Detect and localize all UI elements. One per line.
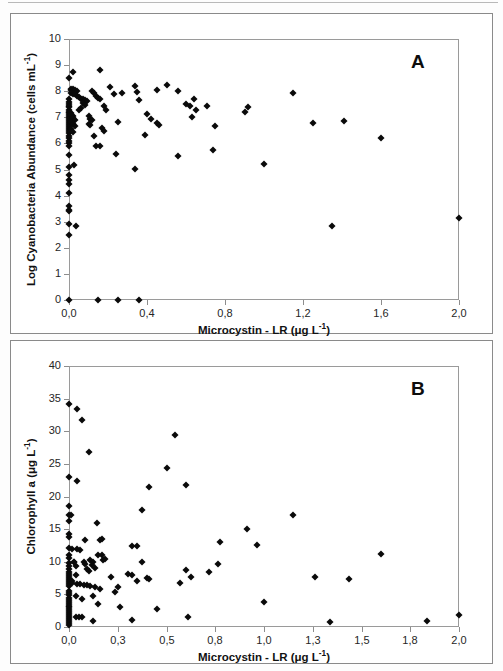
x-tick-a-1 (147, 300, 148, 305)
panel-b: B Microcystin - LR (μg L-1) Chlorophyll … (10, 340, 493, 664)
top-rule-divider (8, 2, 498, 3)
plot-area-a (69, 39, 459, 300)
x-ticklabel-b-6: 1,5 (342, 635, 382, 646)
x-ticklabel-a-0: 0,0 (49, 308, 89, 319)
x-ticklabel-b-3: 0,8 (195, 635, 235, 646)
y-ticklabel-b-8: 40 (21, 360, 61, 371)
y-ticklabel-b-0: 0 (21, 621, 61, 632)
y-tick-b-8 (64, 366, 69, 367)
x-tick-a-2 (225, 300, 226, 305)
x-ticklabel-b-7: 1,8 (390, 635, 430, 646)
y-ticklabel-b-6: 30 (21, 425, 61, 436)
y-tick-a-9 (64, 65, 69, 66)
x-ticklabel-a-5: 2,0 (439, 308, 479, 319)
y-ticklabel-b-3: 15 (21, 523, 61, 534)
x-tick-b-7 (410, 627, 411, 632)
x-ticklabel-b-8: 2,0 (439, 635, 479, 646)
x-ticklabel-a-1: 0,4 (127, 308, 167, 319)
x-axis-title-a: Microcystin - LR (μg L-1) (69, 324, 459, 336)
x-ticklabel-b-2: 0,5 (147, 635, 187, 646)
x-tick-a-5 (459, 300, 460, 305)
y-ticklabel-b-7: 35 (21, 393, 61, 404)
panel-a: A Microcystin - LR (μg L-1) Log Cyanobac… (10, 13, 493, 334)
y-ticklabel-a-9: 9 (21, 59, 61, 70)
x-ticklabel-b-0: 0,0 (49, 635, 89, 646)
y-ticklabel-b-2: 10 (21, 556, 61, 567)
y-tick-b-6 (64, 431, 69, 432)
y-ticklabel-a-7: 7 (21, 111, 61, 122)
y-tick-a-10 (64, 39, 69, 40)
figure-sheet: A Microcystin - LR (μg L-1) Log Cyanobac… (0, 0, 503, 671)
x-tick-b-5 (313, 627, 314, 632)
y-ticklabel-a-2: 2 (21, 242, 61, 253)
x-ticklabel-a-4: 1,6 (361, 308, 401, 319)
x-tick-b-2 (167, 627, 168, 632)
y-ticklabel-a-5: 5 (21, 164, 61, 175)
panel-letter-b: B (411, 378, 425, 400)
x-tick-b-6 (362, 627, 363, 632)
y-tick-a-2 (64, 248, 69, 249)
y-ticklabel-a-4: 4 (21, 190, 61, 201)
x-tick-b-3 (215, 627, 216, 632)
y-ticklabel-a-6: 6 (21, 137, 61, 148)
x-tick-b-8 (459, 627, 460, 632)
x-axis-title-b: Microcystin - LR (μg L-1) (69, 651, 459, 663)
y-ticklabel-a-0: 0 (21, 294, 61, 305)
x-ticklabel-b-1: 0,3 (98, 635, 138, 646)
x-tick-b-1 (118, 627, 119, 632)
x-ticklabel-b-4: 1,0 (244, 635, 284, 646)
y-tick-b-4 (64, 497, 69, 498)
y-ticklabel-a-8: 8 (21, 85, 61, 96)
y-tick-b-5 (64, 464, 69, 465)
x-ticklabel-a-3: 1,2 (283, 308, 323, 319)
y-ticklabel-a-3: 3 (21, 216, 61, 227)
x-tick-b-4 (264, 627, 265, 632)
x-ticklabel-a-2: 0,8 (205, 308, 245, 319)
plot-area-b (69, 366, 459, 627)
x-ticklabel-b-5: 1,3 (293, 635, 333, 646)
panel-letter-a: A (411, 51, 425, 73)
y-ticklabel-b-4: 20 (21, 491, 61, 502)
y-ticklabel-b-5: 25 (21, 458, 61, 469)
y-ticklabel-a-10: 10 (21, 33, 61, 44)
x-tick-a-4 (381, 300, 382, 305)
y-tick-a-1 (64, 274, 69, 275)
x-tick-a-3 (303, 300, 304, 305)
y-ticklabel-b-1: 5 (21, 588, 61, 599)
y-ticklabel-a-1: 1 (21, 268, 61, 279)
